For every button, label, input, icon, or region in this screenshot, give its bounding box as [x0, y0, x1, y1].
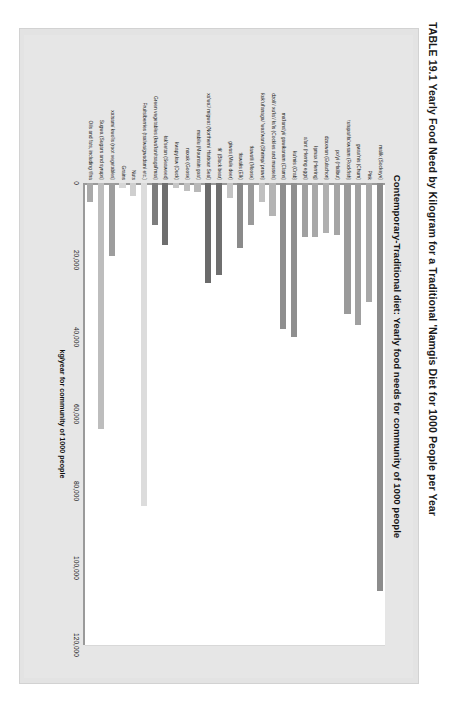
x-tick-label: 80,000: [73, 481, 80, 501]
category-label: giwas (Mule deer): [227, 37, 233, 183]
category-label: tłiʼ (Black bear): [216, 37, 222, 183]
table-caption: TABLE 19.1 Yearly Food Need by Kilogram …: [427, 22, 439, 692]
figure-plate: Contemporary-Traditional diet: Yearly fo…: [19, 28, 419, 684]
page-root: TABLE 19.1 Yearly Food Need by Kilogram …: [0, 0, 449, 709]
bar: [194, 183, 200, 192]
bar: [269, 183, 275, 216]
bar: [216, 183, 222, 275]
x-tick-label: 60,000: [73, 404, 80, 424]
bar: [141, 183, 147, 506]
bar: [98, 183, 104, 429]
category-label: dzoliʼ/ xuʼłaʼ/ ła'is (Cockles and musse…: [269, 37, 275, 183]
bar: [130, 183, 136, 196]
category-label: gwax'nis (Chum): [355, 37, 361, 183]
bar: [323, 183, 329, 233]
category-label: tławałis (Elk): [237, 37, 243, 183]
bar: [312, 183, 318, 237]
bar: [109, 183, 115, 256]
bar: [344, 183, 350, 314]
category-label: ƙwapy.ław (Duck): [173, 37, 179, 183]
category-label: ła̱max (Herring): [312, 37, 318, 183]
category-label: tutupa/tła'xwsam (Rockfish): [344, 37, 350, 183]
category-label: ƙukʼułʼanaga/ 'was'wani (Shrimp/ prawn): [259, 37, 265, 183]
bar: [152, 183, 158, 225]
bar: [119, 183, 125, 188]
category-label: mabilu (Mountain goat): [194, 37, 200, 183]
category-label: malik (Sockeye): [377, 37, 383, 183]
bar: [173, 183, 179, 188]
bar: [205, 183, 211, 283]
x-tick-label: 100,000: [73, 556, 80, 580]
plot-area: [85, 183, 385, 645]
bar: [280, 183, 286, 329]
category-label: tławatłi (Moose): [248, 37, 254, 183]
gridline: [85, 645, 385, 646]
category-axis-labels: malik (Sockeye)Pinkgwax'nis (Chum)tutupa…: [85, 35, 385, 183]
bar: [302, 183, 308, 237]
category-label: xatsam/ kwo'is (root vegetables): [109, 37, 115, 183]
x-axis-line: [84, 183, 86, 645]
category-label: Pink: [366, 37, 372, 183]
category-label: dzaxwan (Eulachon): [323, 37, 329, 183]
category-label: łak'setan (Seaweed): [162, 37, 168, 183]
category-label: Fruits/berries (tsalwa/gwadam/ etc.): [141, 37, 147, 183]
category-label: a'ant (Herring eggs): [302, 37, 308, 183]
bar: [248, 183, 254, 225]
category-label: Sugwa (Sugars and syrups): [98, 37, 104, 183]
category-label: ma'łana'yi/ gawiƙanam (Clams): [280, 37, 286, 183]
chart-panel: Contemporary-Traditional diet: Yearly fo…: [24, 35, 413, 678]
bar: [291, 183, 297, 337]
x-axis-title: kg/year for community of 1000 people: [58, 183, 67, 645]
bar: [334, 183, 340, 235]
bar: [162, 183, 168, 245]
bar: [237, 183, 243, 248]
category-label: Oils and fats, including tł'na: [87, 37, 93, 183]
chart-title: Contemporary-Traditional diet: Yearly fo…: [392, 35, 403, 678]
bar: [259, 183, 265, 202]
bar: [227, 183, 233, 198]
category-label: xa'waʼ/ migwat (Northern/ Harbour Seal): [205, 37, 211, 183]
category-label: Green vegetables (ƙwa'łan/tsagał'mas): [152, 37, 158, 183]
bar: [184, 183, 190, 191]
category-label: ƙu'mis (Crab): [291, 37, 297, 183]
x-tick-label: 120,000: [73, 633, 80, 657]
category-label: naxak (Goose): [184, 37, 190, 183]
bar: [366, 183, 372, 302]
bar: [355, 183, 361, 325]
x-tick-label: 20,000: [73, 250, 80, 270]
bar: [377, 183, 383, 591]
category-label: po'yi (Halibut): [334, 37, 340, 183]
bar: [87, 183, 93, 202]
x-tick-label: 40,000: [73, 327, 80, 347]
rotated-figure: TABLE 19.1 Yearly Food Need by Kilogram …: [0, 0, 449, 709]
category-label: Grains: [119, 37, 125, 183]
category-label: Nuts: [130, 37, 136, 183]
x-tick-label: 0: [73, 181, 80, 185]
